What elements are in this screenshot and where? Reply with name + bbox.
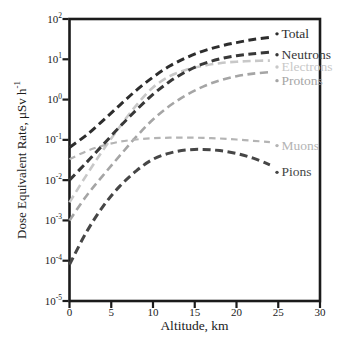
x-tick-label: 10 bbox=[148, 306, 160, 318]
x-tick-label: 30 bbox=[315, 306, 327, 318]
curve-pions bbox=[70, 149, 270, 264]
series-label-dot-pions bbox=[275, 171, 278, 174]
x-tick-label: 15 bbox=[189, 306, 201, 318]
curve-protons bbox=[70, 72, 270, 220]
x-tick-label: 5 bbox=[109, 306, 115, 318]
y-axis-label-exponent: -1 bbox=[12, 81, 22, 89]
series-label-dot-total bbox=[275, 32, 278, 35]
series-label-total: Total bbox=[282, 26, 310, 41]
y-tick-label: 10-2 bbox=[45, 172, 62, 186]
series-label-dot-muons bbox=[275, 144, 278, 147]
y-tick-label: 100 bbox=[47, 92, 62, 106]
chart-plot-area: 10210110010-110-210-310-410-505101520253… bbox=[0, 0, 337, 349]
x-tick-label: 25 bbox=[273, 306, 285, 318]
y-tick-label: 10-3 bbox=[45, 212, 62, 226]
series-label-dot-electrons bbox=[275, 65, 278, 68]
x-tick-label: 0 bbox=[67, 306, 73, 318]
x-axis-label: Altitude, km bbox=[69, 318, 320, 334]
y-tick-label: 101 bbox=[47, 51, 62, 65]
y-axis-label: Dose Equivalent Rate, μSv h-1 bbox=[12, 81, 29, 239]
y-tick-label: 10-4 bbox=[45, 253, 62, 267]
cosmic-ray-dose-altitude-chart: 10210110010-110-210-310-410-505101520253… bbox=[0, 0, 337, 349]
series-label-dot-protons bbox=[275, 79, 278, 82]
series-label-dot-neutrons bbox=[275, 53, 278, 56]
y-axis-label-text: Dose Equivalent Rate, μSv h bbox=[14, 89, 29, 239]
y-tick-label: 10-1 bbox=[45, 132, 62, 146]
curve-neutrons bbox=[70, 52, 270, 180]
series-label-pions: Pions bbox=[282, 164, 312, 179]
series-label-muons: Muons bbox=[282, 138, 320, 153]
y-tick-label: 102 bbox=[47, 11, 62, 25]
y-tick-label: 10-5 bbox=[45, 293, 62, 307]
x-tick-label: 20 bbox=[231, 306, 243, 318]
series-label-protons: Protons bbox=[282, 73, 323, 88]
